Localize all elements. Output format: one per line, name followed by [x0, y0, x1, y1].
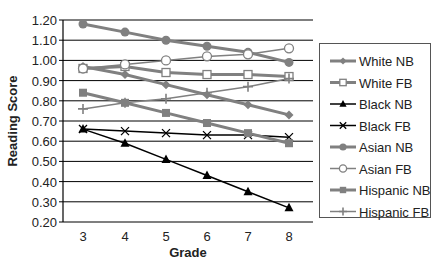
circle-open-marker	[285, 44, 294, 53]
square-marker	[203, 119, 211, 127]
line-chart: 0.200.300.400.500.600.700.800.901.001.10…	[0, 0, 440, 271]
circle-marker	[79, 20, 88, 29]
square-marker	[244, 129, 252, 137]
diamond-marker	[121, 70, 130, 79]
legend-label: White FB	[359, 76, 412, 91]
circle-open-marker	[79, 64, 88, 73]
circle-marker	[339, 143, 346, 150]
x-tick-label: 6	[203, 229, 210, 244]
circle-open-marker	[244, 50, 253, 59]
square-open-marker	[203, 71, 211, 79]
x-axis-title: Grade	[169, 245, 207, 260]
legend-label: Black NB	[359, 97, 412, 112]
plus-marker	[243, 82, 253, 92]
y-tick-label: 0.60	[32, 134, 57, 149]
y-tick-label: 0.90	[32, 74, 57, 89]
circle-marker	[121, 28, 130, 37]
x-tick-label: 7	[244, 229, 251, 244]
square-open-marker	[244, 71, 252, 79]
x-tick-label: 3	[79, 229, 86, 244]
plus-marker	[78, 104, 88, 114]
x-tick-label: 4	[121, 229, 128, 244]
circle-marker	[203, 42, 212, 51]
square-marker	[340, 187, 346, 193]
square-marker	[285, 139, 293, 147]
square-open-marker	[162, 69, 170, 77]
y-axis-ticks: 0.200.300.400.500.600.700.800.901.001.10…	[32, 13, 57, 230]
y-tick-label: 1.20	[32, 13, 57, 28]
series-asian-nb	[79, 20, 294, 67]
circle-marker	[162, 36, 171, 45]
y-tick-label: 0.70	[32, 114, 57, 129]
series-group	[78, 20, 294, 212]
legend-label: Hispanic NB	[359, 183, 431, 198]
square-marker	[162, 109, 170, 117]
x-tick-label: 8	[285, 229, 292, 244]
y-tick-label: 1.10	[32, 33, 57, 48]
legend-label: Hispanic FB	[359, 205, 429, 220]
y-axis-title: Reading Score	[5, 75, 20, 166]
legend-label: Asian NB	[359, 140, 413, 155]
diamond-marker	[285, 110, 294, 119]
y-tick-label: 0.40	[32, 175, 57, 190]
diamond-marker	[244, 100, 253, 109]
y-tick-label: 0.20	[32, 215, 57, 230]
x-axis-ticks: 345678	[79, 229, 292, 244]
x-tick-label: 5	[162, 229, 169, 244]
circle-open-marker	[121, 60, 130, 69]
plus-marker	[161, 94, 171, 104]
diamond-marker	[162, 80, 171, 89]
legend-label: Asian FB	[359, 162, 412, 177]
circle-open-marker	[162, 56, 171, 65]
circle-open-marker	[339, 165, 346, 172]
circle-open-marker	[203, 52, 212, 61]
legend-label: Black FB	[359, 119, 411, 134]
y-tick-label: 0.30	[32, 195, 57, 210]
series-white-nb	[79, 62, 294, 119]
square-open-marker	[340, 79, 346, 85]
y-tick-label: 0.50	[32, 154, 57, 169]
square-marker	[79, 89, 87, 97]
legend-label: White NB	[359, 54, 414, 69]
circle-marker	[285, 58, 294, 67]
y-tick-label: 1.00	[32, 53, 57, 68]
y-tick-label: 0.80	[32, 94, 57, 109]
